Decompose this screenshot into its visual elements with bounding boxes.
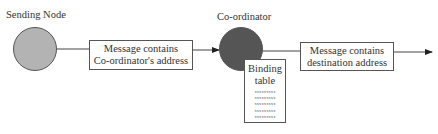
binding-table: Binding table xxxxxxxxx xxxxxxxxx xxxxxx… [244,59,286,123]
sending-node-circle [13,27,57,71]
message-box-coordinator-address: Message contains Co-ordinator's address [89,40,193,70]
coordinator-label: Co-ordinator [217,11,271,22]
message-2-line1: Message contains [301,45,393,57]
message-2-line2: destination address [301,57,393,69]
message-1-line2: Co-ordinator's address [90,55,192,67]
message-1-line1: Message contains [90,43,192,55]
sending-node-label: Sending Node [6,9,66,20]
binding-table-title-line2: table [245,75,285,87]
binding-table-row: xxxxxxxxx [245,114,285,120]
binding-table-title-line1: Binding [245,63,285,75]
message-box-destination-address: Message contains destination address [300,42,394,71]
